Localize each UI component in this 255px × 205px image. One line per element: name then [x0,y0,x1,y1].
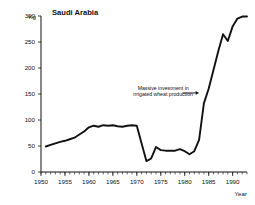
y-tick-label-0: 0 [32,168,36,175]
y-tick-label-300: 300 [25,12,36,19]
x-tick-label-1950: 1950 [34,178,48,185]
x-tick-label-1975: 1975 [154,178,168,185]
x-tick-label-1985: 1985 [202,178,216,185]
annotation-text-line-2: irrigated wheat production [133,91,193,97]
annotation-arrow-head-icon [196,91,199,95]
x-tick-label-1970: 1970 [130,178,144,185]
y-tick-label-100: 100 [25,116,36,123]
y-tick-label-200: 200 [25,64,36,71]
chart-container: Saudi Arabia Kg 050100150200250300 19501… [0,0,255,205]
annotation-text-line-1: Massive investment in [138,85,189,91]
y-tick-label-50: 50 [28,142,35,149]
line-chart: Saudi Arabia Kg 050100150200250300 19501… [0,0,255,205]
x-tick-label-1960: 1960 [82,178,96,185]
x-tick-label-1955: 1955 [58,178,72,185]
y-tick-label-250: 250 [25,38,36,45]
y-tick-label-150: 150 [25,90,36,97]
x-tick-label-1965: 1965 [106,178,120,185]
chart-title: Saudi Arabia [52,8,99,17]
y-axis-ticks: 050100150200250300 [25,12,41,175]
x-axis-title: Year [234,190,247,197]
annotation-group: Massive investment in irrigated wheat pr… [133,85,199,97]
x-axis-ticks: 195019551960196519701975198019851990 [34,172,240,185]
x-tick-label-1990: 1990 [226,178,240,185]
x-tick-label-1980: 1980 [178,178,192,185]
